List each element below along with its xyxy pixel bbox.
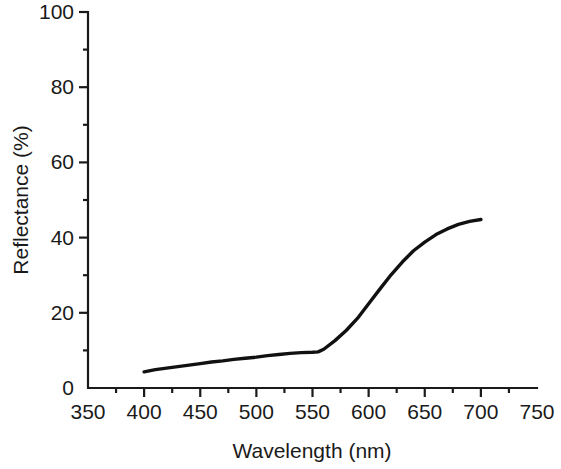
y-tick-label: 80 bbox=[51, 75, 74, 98]
y-tick-label: 100 bbox=[39, 0, 74, 23]
y-axis-tick-labels: 020406080100 bbox=[39, 0, 74, 399]
x-tick-label: 350 bbox=[70, 400, 105, 423]
x-tick-label: 600 bbox=[351, 400, 386, 423]
x-tick-label: 450 bbox=[183, 400, 218, 423]
x-tick-label: 400 bbox=[127, 400, 162, 423]
x-axis-major-ticks bbox=[144, 388, 481, 397]
x-tick-label: 700 bbox=[463, 400, 498, 423]
y-tick-label: 40 bbox=[51, 226, 74, 249]
chart-canvas: 350400450500550600650700750 020406080100… bbox=[0, 0, 561, 469]
y-tick-label: 20 bbox=[51, 301, 74, 324]
axes-group bbox=[88, 12, 537, 388]
data-series-group bbox=[144, 220, 481, 372]
y-tick-label: 60 bbox=[51, 150, 74, 173]
x-tick-label: 750 bbox=[519, 400, 554, 423]
axis-lines bbox=[88, 12, 537, 388]
reflectance-curve bbox=[144, 220, 481, 372]
x-tick-label: 500 bbox=[239, 400, 274, 423]
y-tick-label: 0 bbox=[62, 376, 74, 399]
y-axis-title: Reflectance (%) bbox=[9, 125, 32, 274]
x-tick-label: 550 bbox=[295, 400, 330, 423]
x-axis-title: Wavelength (nm) bbox=[232, 439, 391, 462]
y-axis-major-ticks bbox=[79, 12, 88, 313]
reflectance-chart-figure: 350400450500550600650700750 020406080100… bbox=[0, 0, 561, 469]
x-tick-label: 650 bbox=[407, 400, 442, 423]
x-axis-tick-labels: 350400450500550600650700750 bbox=[70, 400, 554, 423]
